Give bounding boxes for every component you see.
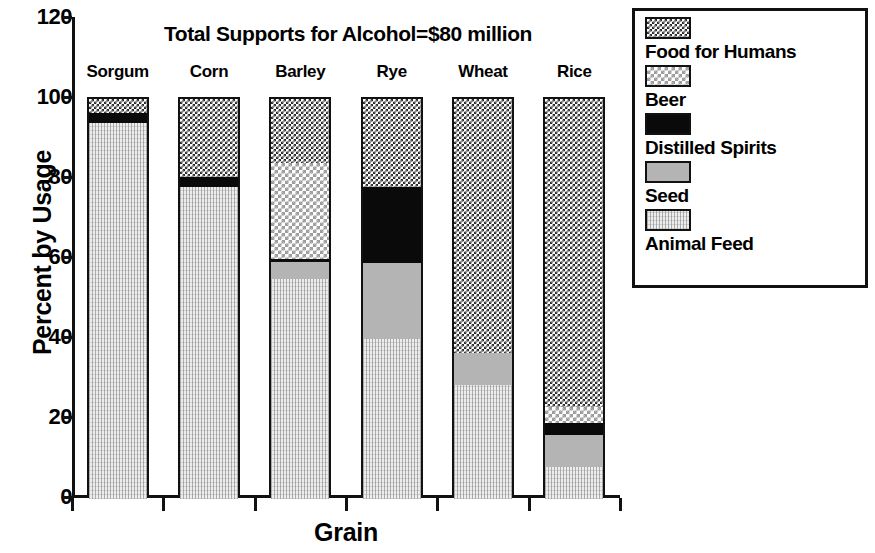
legend-swatch-distilled-spirits [645, 113, 691, 135]
legend: Food for HumansBeerDistilled SpiritsSeed… [632, 8, 868, 288]
bar-corn [178, 97, 240, 497]
segment-distilled-spirits [545, 423, 603, 435]
segment-distilled-spirits [89, 113, 147, 123]
x-tick-mark [619, 498, 622, 511]
legend-label: Seed [645, 183, 865, 208]
segment-distilled-spirits [180, 177, 238, 187]
segment-seed [363, 263, 421, 339]
segment-food-for-humans [545, 99, 603, 407]
x-axis-title: Grain [72, 518, 620, 547]
bar-wheat [452, 97, 514, 497]
plot-area [72, 17, 618, 497]
legend-item-animal-feed: Animal Feed [645, 209, 865, 256]
segment-animal-feed [180, 187, 238, 499]
y-axis: 020406080100120 [10, 0, 72, 553]
y-tick-mark [63, 416, 72, 419]
segment-animal-feed [545, 467, 603, 499]
legend-item-beer: Beer [645, 65, 865, 112]
segment-food-for-humans [363, 99, 421, 187]
segment-seed [454, 353, 512, 385]
bar-barley [269, 97, 331, 497]
segment-distilled-spirits [363, 187, 421, 263]
legend-label: Beer [645, 87, 865, 112]
legend-label: Food for Humans [645, 39, 865, 64]
segment-animal-feed [89, 123, 147, 499]
y-tick-mark [63, 16, 72, 19]
segment-food-for-humans [89, 99, 147, 113]
segment-beer [545, 407, 603, 423]
bar-rye [361, 97, 423, 497]
legend-item-distilled-spirits: Distilled Spirits [645, 113, 865, 160]
y-tick-mark [63, 256, 72, 259]
x-tick-mark [254, 498, 257, 511]
legend-swatch-animal-feed [645, 209, 691, 231]
x-tick-mark [345, 498, 348, 511]
legend-swatch-seed [645, 161, 691, 183]
legend-item-seed: Seed [645, 161, 865, 208]
segment-animal-feed [454, 385, 512, 499]
legend-label: Animal Feed [645, 231, 865, 256]
x-tick-mark [162, 498, 165, 511]
bar-rice [543, 97, 605, 497]
segment-seed [545, 435, 603, 467]
segment-beer [271, 163, 329, 259]
bar-sorgum [87, 97, 149, 497]
chart-title: Total Supports for Alcohol=$80 million [78, 22, 618, 46]
segment-food-for-humans [454, 99, 512, 353]
x-tick-mark [436, 498, 439, 511]
segment-animal-feed [271, 279, 329, 499]
legend-item-food-for-humans: Food for Humans [645, 17, 865, 64]
category-label-rice: Rice [514, 62, 634, 82]
segment-animal-feed [363, 339, 421, 499]
segment-seed [271, 262, 329, 279]
x-tick-mark [528, 498, 531, 511]
x-tick-mark [71, 498, 74, 511]
legend-swatch-food-for-humans [645, 17, 691, 39]
legend-label: Distilled Spirits [645, 135, 865, 160]
y-tick-mark [63, 336, 72, 339]
segment-food-for-humans [271, 99, 329, 163]
segment-food-for-humans [180, 99, 238, 177]
y-tick-mark [63, 96, 72, 99]
y-tick-mark [63, 176, 72, 179]
legend-swatch-beer [645, 65, 691, 87]
chart-figure: Percent by Usage 020406080100120 Total S… [0, 0, 875, 553]
